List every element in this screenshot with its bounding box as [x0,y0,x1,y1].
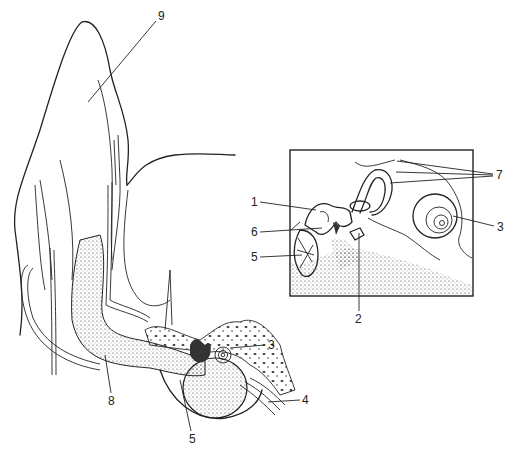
label-7: 7 [496,169,503,181]
label-3-main: 3 [268,339,275,351]
label-3-inset: 3 [497,221,504,233]
label-5-inset: 5 [251,251,258,263]
label-4: 4 [302,394,309,406]
label-2: 2 [355,313,362,325]
label-9: 9 [158,10,165,22]
inset-panel [290,150,473,296]
label-1: 1 [251,196,258,208]
label-5-main: 5 [189,433,196,445]
pinna [15,22,235,335]
label-8: 8 [108,395,115,407]
label-6: 6 [251,226,258,238]
ear-anatomy-diagram: 9 7 1 3 6 5 2 3 4 8 5 [0,0,522,460]
ear-canal [72,235,205,376]
ear-illustration [0,0,522,460]
